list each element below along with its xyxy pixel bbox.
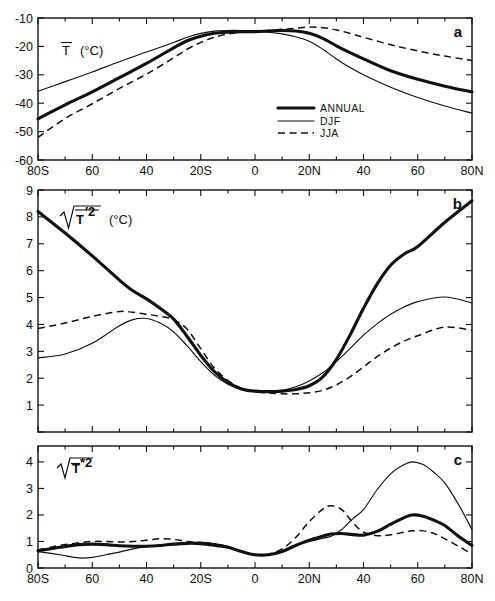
x-tick-label-a: 60 [85,164,99,178]
x-tick-label-a: 20S [190,164,212,178]
ylabel-a-unit: (°C) [80,43,103,58]
legend-label-djf: DJF [320,115,340,127]
x-tick-label-a: 40 [357,164,371,178]
x-tick-label-c: 60 [411,572,425,586]
legend: ANNUALDJFJJA [278,102,365,139]
y-tick-label-a: -30 [15,68,33,82]
y-tick-label-a: -10 [15,12,33,26]
plot-frame-b [38,190,472,432]
ylabel-a-symbol: T [62,43,70,58]
series-annual-b [38,201,472,392]
x-tick-label-c: 80S [27,572,49,586]
panel-c: 0123480S604020S020N406080NcT*2 [26,446,483,586]
y-tick-label-b: 2 [26,372,33,386]
series-annual-c [38,515,472,555]
y-tick-label-b: 4 [26,318,33,332]
legend-label-annual: ANNUAL [320,102,365,114]
x-tick-label-c: 40 [357,572,371,586]
series-djf-b [38,297,472,392]
y-tick-label-b: 5 [26,291,33,305]
x-tick-label-a: 80N [461,164,484,178]
plot-frame-c [38,446,472,568]
figure-root: -10-20-30-40-50-6080S604020S020N406080Na… [0,0,495,601]
panel-letter-b: b [453,195,462,212]
x-tick-label-c: 60 [85,572,99,586]
y-tick-label-b: 1 [26,399,33,413]
x-tick-label-a: 20N [298,164,321,178]
panel-b: 123456789bT′2(°C) [26,184,472,433]
y-tick-label-b: 8 [26,210,33,224]
x-tick-label-a: 40 [140,164,154,178]
y-tick-label-b: 9 [26,184,33,198]
series-jja-c [38,506,472,555]
x-tick-label-c: 80N [461,572,484,586]
x-tick-label-c: 20N [298,572,321,586]
ylabel-b-symbol: T [76,212,84,227]
plot-frame-a [38,18,472,160]
legend-label-jja: JJA [320,127,339,139]
panel-a: -10-20-30-40-50-6080S604020S020N406080Na… [15,12,484,179]
chart-canvas: -10-20-30-40-50-6080S604020S020N406080Na… [0,0,495,601]
x-tick-label-c: 20S [190,572,212,586]
x-tick-label-a: 80S [27,164,49,178]
y-tick-label-b: 7 [26,237,33,251]
y-tick-label-c: 3 [26,482,33,496]
x-tick-label-c: 0 [252,572,259,586]
ylabel-b-unit: (°C) [109,212,132,227]
y-tick-label-c: 4 [26,455,33,469]
panel-letter-a: a [454,23,463,40]
y-tick-label-b: 6 [26,264,33,278]
ylabel-c-star-square: *2 [80,455,92,470]
y-tick-label-c: 1 [26,535,33,549]
y-tick-label-a: -20 [15,40,33,54]
x-tick-label-c: 40 [140,572,154,586]
y-tick-label-a: -40 [15,97,33,111]
ylabel-b-prime-square: ′2 [85,204,95,219]
y-tick-label-c: 2 [26,508,33,522]
y-tick-label-a: -50 [15,125,33,139]
y-tick-label-b: 3 [26,345,33,359]
series-jja-b [38,311,472,394]
x-tick-label-a: 60 [411,164,425,178]
panel-letter-c: c [454,451,462,468]
x-tick-label-a: 0 [252,164,259,178]
